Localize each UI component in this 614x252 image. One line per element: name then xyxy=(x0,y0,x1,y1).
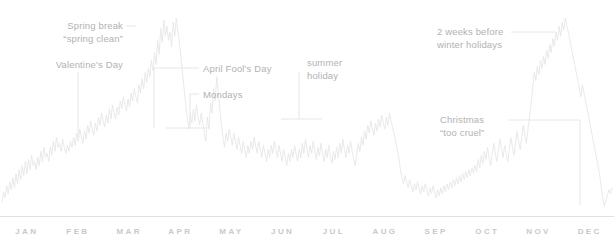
annotation-two-weeks-before-winter-holidays-line-1: 2 weeks before xyxy=(437,25,557,38)
x-tick-may: MAY xyxy=(205,221,256,243)
annotation-valentines-day: Valentine's Day xyxy=(18,58,123,71)
annotation-summer-holiday-line-1: summer xyxy=(307,56,397,69)
seasonal-activity-chart: Spring break“spring clean”Valentine's Da… xyxy=(0,0,614,252)
annotation-summer-holiday: summerholiday xyxy=(307,56,397,82)
x-tick-oct: OCT xyxy=(461,221,512,243)
annotation-christmas-line-1: Christmas xyxy=(440,113,540,126)
annotation-spring-break-line-1: Spring break xyxy=(18,19,123,32)
annotation-two-weeks-before-winter-holidays-line-2: winter holidays xyxy=(437,38,557,51)
annotation-mondays: Mondays xyxy=(203,88,323,101)
x-tick-aug: AUG xyxy=(358,221,409,243)
annotation-april-fools-day-line-1: April Fool's Day xyxy=(203,62,323,75)
annotation-spring-break: Spring break“spring clean” xyxy=(18,19,123,45)
x-tick-mar: MAR xyxy=(102,221,153,243)
x-tick-jan: JAN xyxy=(0,221,51,243)
x-tick-feb: FEB xyxy=(51,221,102,243)
annotation-april-fools-day: April Fool's Day xyxy=(203,62,323,75)
annotation-christmas: Christmas“too cruel” xyxy=(440,113,540,139)
annotation-spring-break-line-2: “spring clean” xyxy=(18,32,123,45)
annotation-summer-holiday-line-2: holiday xyxy=(307,69,397,82)
x-tick-sep: SEP xyxy=(409,221,460,243)
annotation-christmas-line-2: “too cruel” xyxy=(440,126,540,139)
x-axis-tick-labels: JANFEBMARAPRMAYJUNJULAUGSEPOCTNOVDEC xyxy=(0,221,614,243)
x-tick-dec: DEC xyxy=(563,221,614,243)
x-tick-nov: NOV xyxy=(512,221,563,243)
x-tick-jul: JUL xyxy=(307,221,358,243)
annotation-mondays-line-1: Mondays xyxy=(203,88,323,101)
x-tick-jun: JUN xyxy=(256,221,307,243)
annotation-valentines-day-line-1: Valentine's Day xyxy=(18,58,123,71)
annotation-two-weeks-before-winter-holidays: 2 weeks beforewinter holidays xyxy=(437,25,557,51)
x-tick-apr: APR xyxy=(154,221,205,243)
